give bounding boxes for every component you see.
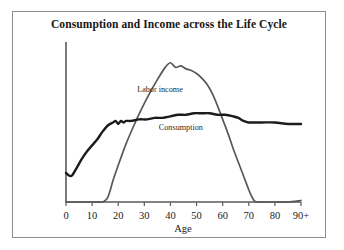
x-tick-label: 40	[165, 210, 176, 221]
chart-canvas: 0102030405060708090+ Age Labor income Co…	[12, 11, 326, 238]
label-labor-income: Labor income	[137, 85, 183, 94]
x-tick-label: 20	[113, 210, 124, 221]
plot-area: 0102030405060708090+ Age Labor income Co…	[12, 11, 326, 238]
x-tick-label: 50	[191, 210, 202, 221]
x-tick-label: 80	[270, 210, 281, 221]
chart-figure: Consumption and Income across the Life C…	[0, 0, 344, 250]
x-tick-label: 0	[63, 210, 68, 221]
x-axis-title: Age	[174, 223, 192, 234]
x-tick-label: 30	[139, 210, 150, 221]
label-consumption: Consumption	[159, 123, 203, 132]
data-series	[66, 63, 301, 202]
x-tick-labels: 0102030405060708090+	[63, 210, 309, 221]
x-tick-label: 10	[87, 210, 98, 221]
x-tick-label: 90+	[293, 210, 310, 221]
x-tick-label: 60	[217, 210, 228, 221]
x-tick-label: 70	[244, 210, 255, 221]
